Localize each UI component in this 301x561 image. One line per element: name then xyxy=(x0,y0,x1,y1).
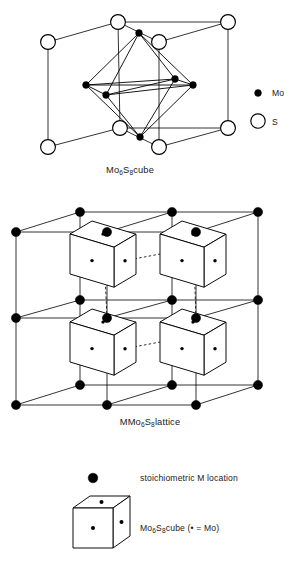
legend-cube-tail: cube (• = Mo) xyxy=(166,523,219,533)
middle-panel-caption: MMo6S8lattice xyxy=(120,417,180,428)
legend-cube-glyph-icon xyxy=(73,496,130,548)
lattice-edge-depth xyxy=(16,300,80,318)
octahedron-edge xyxy=(86,33,139,85)
molybdenum-atom xyxy=(172,76,179,83)
m-site-marker xyxy=(191,313,200,322)
cube-mo-dot xyxy=(123,259,126,262)
lattice-cluster-cubes xyxy=(70,221,226,375)
m-site-marker xyxy=(11,313,20,322)
molybdenum-atom xyxy=(103,92,110,99)
cube-mo-dot xyxy=(90,347,93,350)
figure-root: Mo S Mo6S8cube MMo6S8lattice stoichiomet… xyxy=(0,0,301,561)
sulfur-cube-edge xyxy=(48,22,118,42)
sulfur-cube-edge xyxy=(48,128,120,147)
sulfur-atom xyxy=(41,140,56,155)
lattice-edge-depth xyxy=(16,385,80,405)
m-site-marker xyxy=(253,295,262,304)
top-panel-caption: Mo6S8cube xyxy=(106,165,154,176)
structure-diagram: Mo S Mo6S8cube MMo6S8lattice stoichiomet… xyxy=(0,0,301,561)
m-site-marker xyxy=(102,227,111,236)
legend-m-site-marker-icon xyxy=(88,473,98,483)
cube-mo-dot xyxy=(180,347,183,350)
legend-mo-marker-icon xyxy=(255,90,262,97)
molybdenum-atom xyxy=(190,82,197,89)
sulfur-cube-edge xyxy=(159,128,228,147)
lattice-edge-depth xyxy=(196,300,258,318)
molybdenum-atom xyxy=(137,134,144,141)
m-site-marker xyxy=(253,207,262,216)
caption-word: cube xyxy=(133,165,154,175)
m-site-marker xyxy=(102,313,111,322)
m-site-marker xyxy=(11,227,20,236)
legend-cube-mo-dot xyxy=(120,520,124,524)
legend-cube-mo-dot xyxy=(100,500,104,504)
m-site-marker xyxy=(11,400,20,409)
m-site-marker xyxy=(75,207,84,216)
lattice-edge-depth xyxy=(16,212,80,232)
m-site-marker xyxy=(253,380,262,389)
bottom-legend-panel: stoichiometric M location Mo6S8cube (• =… xyxy=(73,473,238,548)
sulfur-atom xyxy=(113,121,128,136)
legend-mo-label: Mo xyxy=(272,88,284,98)
lattice-edge-depth xyxy=(107,300,172,318)
cube-mo-dot xyxy=(213,259,216,262)
sulfur-atom xyxy=(152,140,167,155)
mo6s8-cube-panel: Mo S Mo6S8cube xyxy=(41,15,285,177)
legend-s-marker-icon xyxy=(251,114,265,128)
cube-mo-dot xyxy=(180,259,183,262)
m-site-marker xyxy=(102,400,111,409)
cube-mo-dot xyxy=(123,347,126,350)
lattice-edge-depth xyxy=(196,385,258,405)
lattice-edge-depth xyxy=(107,385,172,405)
caption-mo: Mo xyxy=(106,165,119,175)
m-site-marker xyxy=(167,207,176,216)
legend-cube-label: Mo6S8cube (• = Mo) xyxy=(140,523,219,534)
sulfur-cube-edge xyxy=(159,22,228,42)
legend-m-site-label: stoichiometric M location xyxy=(140,473,238,483)
cube-mo-dot xyxy=(90,259,93,262)
sulfur-atom xyxy=(221,15,236,30)
caption-mid-word: lattice xyxy=(155,417,180,427)
octahedron-edge xyxy=(106,33,139,95)
legend-s-label: S xyxy=(272,117,278,127)
sulfur-atom xyxy=(221,121,236,136)
legend-cube-mo: Mo xyxy=(140,523,152,533)
caption-mmo: MMo xyxy=(120,417,141,427)
legend-cube-mo-dot xyxy=(91,526,95,530)
sulfur-atom xyxy=(152,35,167,50)
molybdenum-atom xyxy=(136,30,143,37)
molybdenum-atom xyxy=(83,82,90,89)
m-site-marker xyxy=(75,295,84,304)
sulfur-cube-edges xyxy=(48,22,228,147)
m-site-marker xyxy=(191,227,200,236)
m-site-marker xyxy=(191,400,200,409)
molybdenum-octahedron-edges xyxy=(86,33,193,137)
species-legend: Mo S xyxy=(251,88,285,128)
m-site-marker xyxy=(167,295,176,304)
mmo6s8-lattice-panel: MMo6S8lattice xyxy=(11,207,262,428)
sulfur-atom xyxy=(111,15,126,30)
sulfur-atom xyxy=(41,35,56,50)
m-site-marker xyxy=(167,380,176,389)
cube-mo-dot xyxy=(213,347,216,350)
m-site-marker xyxy=(75,380,84,389)
